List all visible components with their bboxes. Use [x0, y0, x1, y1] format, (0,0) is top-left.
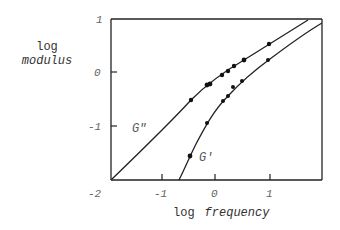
- ytick-label-1: 1: [96, 14, 103, 26]
- y-axis-label-line1: log: [36, 40, 58, 54]
- y-axis-label-line2: modulus: [22, 54, 72, 68]
- xtick-label-1: 1: [266, 188, 273, 200]
- data-point: [221, 99, 225, 103]
- g-prime-points: [188, 58, 270, 158]
- data-point: [240, 79, 244, 83]
- data-point: [205, 121, 209, 125]
- chart-canvas: 1 0 -1 -2 -1 0 1 log modulus log frequen…: [0, 0, 340, 230]
- ytick-label-m1: -1: [88, 121, 101, 133]
- g-prime-label: G': [199, 151, 213, 165]
- data-point: [188, 154, 193, 159]
- xtick-label-m1: -1: [154, 188, 167, 200]
- xtick-label-0: 0: [211, 188, 218, 200]
- g-double-prime-label: G": [132, 122, 146, 136]
- data-point: [189, 98, 193, 102]
- x-axis-label-suffix: frequency: [205, 206, 271, 220]
- data-point: [226, 69, 230, 73]
- x-axis-label-prefix: log: [173, 206, 195, 220]
- plot-frame: [111, 19, 322, 180]
- data-point: [226, 94, 230, 98]
- data-point: [242, 58, 247, 63]
- data-point: [231, 85, 235, 89]
- data-point: [220, 73, 224, 77]
- data-point: [267, 42, 271, 46]
- ytick-label-m2: -2: [88, 188, 102, 200]
- data-point: [266, 58, 270, 62]
- data-point: [232, 64, 236, 68]
- ytick-label-0: 0: [94, 67, 101, 79]
- x-axis-label: log frequency: [173, 202, 270, 220]
- data-point: [208, 82, 213, 87]
